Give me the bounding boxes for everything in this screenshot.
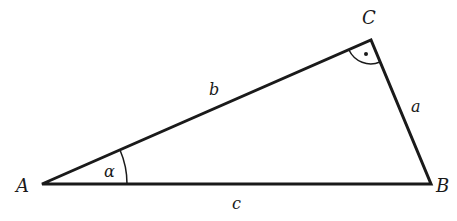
triangle-diagram: A B C a b c α [0, 0, 457, 221]
angle-label-alpha: α [104, 162, 115, 181]
vertex-label-c: C [362, 7, 376, 28]
side-label-b: b [209, 80, 219, 99]
angle-alpha-arc [120, 150, 127, 184]
vertex-label-b: B [435, 175, 449, 196]
side-label-a: a [411, 97, 421, 116]
right-angle-dot [364, 52, 368, 56]
vertex-label-a: A [14, 175, 29, 196]
triangle [42, 40, 431, 184]
side-label-c: c [232, 194, 241, 213]
